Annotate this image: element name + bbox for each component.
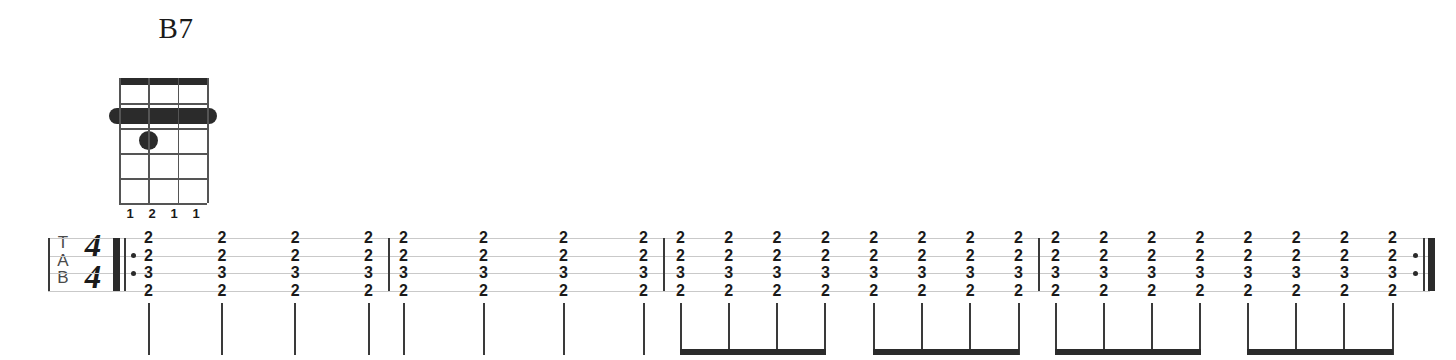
tab-fret-number: 3	[913, 265, 930, 281]
tab-fret-number: 2	[287, 230, 304, 246]
tab-fret-number: 3	[287, 265, 304, 281]
tab-fret-number: 2	[1191, 283, 1208, 299]
tab-fret-number: 2	[1095, 283, 1112, 299]
tab-fret-number: 2	[672, 230, 689, 246]
time-signature: 44	[80, 231, 106, 293]
tab-fret-number: 2	[360, 248, 377, 264]
tab-fret-number: 2	[1336, 230, 1353, 246]
tab-note-stem	[1103, 303, 1105, 355]
chord-diagram: B7 1211	[105, 14, 225, 43]
chord-string-line	[148, 78, 150, 203]
tab-staff-line	[48, 256, 1430, 257]
tab-fret-number: 2	[140, 248, 157, 264]
tab-fret-number: 2	[1143, 283, 1160, 299]
chord-name-label: B7	[127, 14, 225, 43]
tab-fret-number: 2	[1336, 283, 1353, 299]
tab-beam	[873, 349, 1020, 355]
tab-note-stem	[1343, 303, 1345, 355]
tab-fret-number: 3	[360, 265, 377, 281]
tab-fret-number: 3	[769, 265, 786, 281]
tab-clef: TAB	[52, 234, 74, 287]
tab-note-stem	[1247, 303, 1249, 355]
tab-fret-number: 3	[1095, 265, 1112, 281]
tab-fret-number: 3	[555, 265, 572, 281]
chord-string-line	[178, 78, 180, 203]
tab-fret-number: 3	[1143, 265, 1160, 281]
chord-fretboard-grid	[119, 78, 207, 203]
tab-fret-number: 2	[1143, 248, 1160, 264]
tab-beam	[1055, 349, 1201, 355]
tab-fret-number: 2	[1010, 283, 1027, 299]
repeat-end-dot	[1413, 271, 1418, 276]
repeat-end-dot	[1413, 253, 1418, 258]
tab-fret-number: 2	[1095, 230, 1112, 246]
repeat-end-thin-barline	[1423, 238, 1425, 291]
tab-fret-number: 3	[635, 265, 652, 281]
tab-fret-number: 2	[555, 248, 572, 264]
chord-fret-line	[119, 103, 207, 105]
tab-fret-number: 3	[395, 265, 412, 281]
chord-fingering-number: 1	[185, 206, 207, 221]
repeat-start-thin-barline	[124, 238, 126, 291]
tab-fret-number: 2	[1384, 248, 1401, 264]
tab-note-stem	[294, 303, 296, 355]
repeat-end-thick-barline	[1428, 238, 1435, 291]
tab-fret-number: 2	[1336, 248, 1353, 264]
tab-fret-number: 2	[635, 230, 652, 246]
tab-note-stem	[728, 303, 730, 355]
tab-fret-number: 2	[672, 283, 689, 299]
tab-note-stem	[483, 303, 485, 355]
tab-fret-number: 2	[817, 248, 834, 264]
tab-beam	[680, 349, 827, 355]
tab-note-stem	[1199, 303, 1201, 355]
tab-note-stem	[969, 303, 971, 355]
tab-fret-number: 3	[672, 265, 689, 281]
tab-fret-number: 2	[360, 283, 377, 299]
tab-fret-number: 2	[865, 283, 882, 299]
tab-staff-line	[48, 273, 1430, 274]
tab-fret-number: 3	[140, 265, 157, 281]
tab-fret-number: 2	[1191, 230, 1208, 246]
tab-fret-number: 2	[913, 248, 930, 264]
tab-note-stem	[563, 303, 565, 355]
tab-fret-number: 2	[475, 283, 492, 299]
tab-fret-number: 2	[555, 283, 572, 299]
chord-fret-line	[119, 128, 207, 130]
tab-clef-letter: T	[52, 234, 74, 252]
tab-fret-number: 2	[913, 283, 930, 299]
tab-fret-number: 2	[1047, 283, 1064, 299]
tab-note-stem	[221, 303, 223, 355]
tab-clef-letter: B	[52, 269, 74, 287]
tab-fret-number: 2	[817, 283, 834, 299]
tab-note-stem	[1055, 303, 1057, 355]
tab-note-stem	[1392, 303, 1394, 355]
chord-fingering-number: 1	[119, 206, 141, 221]
tab-fret-number: 2	[1288, 283, 1305, 299]
tab-fret-number: 3	[1288, 265, 1305, 281]
tab-fret-number: 2	[287, 248, 304, 264]
tab-note-stem	[643, 303, 645, 355]
tab-note-stem	[824, 303, 826, 355]
tab-fret-number: 2	[769, 230, 786, 246]
tab-fret-number: 2	[913, 230, 930, 246]
tab-fret-number: 2	[1384, 283, 1401, 299]
chord-barre	[109, 108, 217, 124]
time-signature-digit: 4	[80, 262, 106, 293]
chord-fingering-number: 2	[141, 206, 163, 221]
tab-fret-number: 3	[962, 265, 979, 281]
tab-fret-number: 2	[395, 283, 412, 299]
measure-barline	[663, 238, 665, 291]
tab-fret-number: 2	[672, 248, 689, 264]
chord-string-line	[207, 78, 209, 203]
tab-fret-number: 2	[817, 230, 834, 246]
tab-system: TAB 44 223222322232223222322232223222322…	[0, 228, 1456, 360]
chord-fingering-row: 1211	[119, 206, 207, 221]
tab-fret-number: 2	[360, 230, 377, 246]
tab-note-stem	[680, 303, 682, 355]
repeat-start-dot	[131, 253, 136, 258]
measure-barline	[388, 238, 390, 291]
tab-fret-number: 2	[555, 230, 572, 246]
chord-string-line	[119, 78, 121, 203]
chord-nut	[119, 78, 207, 85]
tab-fret-number: 3	[1384, 265, 1401, 281]
